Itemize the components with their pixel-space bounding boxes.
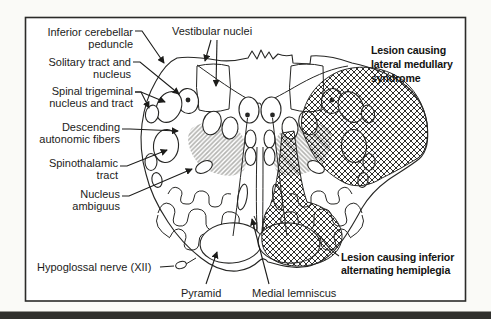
label-pyramid: Pyramid [181, 287, 221, 299]
label-descending-autonomic: Descending [62, 121, 120, 133]
label-spinal-trigeminal: Spinal trigeminal [52, 85, 133, 97]
label-nucleus-ambiguus: Nucleus [80, 188, 120, 200]
caption-lesion-lateral-medullary: syndrome [371, 72, 421, 84]
label-inferior-cerebellar-peduncle: peduncle [88, 38, 133, 50]
scanned-figure-page: Inferior cerebellar peduncle Solitary tr… [0, 0, 491, 319]
label-nucleus-ambiguus: ambiguus [72, 200, 120, 212]
label-solitary-tract: nucleus [93, 68, 131, 80]
label-spinal-trigeminal: nucleus and tract [49, 97, 133, 109]
label-spinothalamic: Spinothalamic [49, 157, 119, 169]
label-spinothalamic: tract [97, 169, 118, 181]
caption-lesion-inferior-alternating: Lesion causing inferior [341, 251, 454, 263]
label-hypoglossal-nerve: Hypoglossal nerve (XII) [37, 261, 151, 273]
hypoglossal-trigone-dot [245, 113, 250, 118]
caption-lesion-inferior-alternating: alternating hemiplegia [341, 264, 450, 276]
solitary-tract-dot [186, 98, 191, 103]
label-vestibular-nuclei: Vestibular nuclei [172, 25, 252, 37]
caption-lesion-lateral-medullary: lateral medullary [371, 58, 453, 70]
label-descending-autonomic: autonomic fibers [39, 133, 120, 145]
caption-lesion-lateral-medullary: Lesion causing [371, 44, 446, 56]
page-rule-band [0, 312, 491, 319]
label-solitary-tract: Solitary tract and [48, 56, 131, 68]
label-medial-lemniscus: Medial lemniscus [252, 287, 337, 299]
label-inferior-cerebellar-peduncle: Inferior cerebellar [47, 26, 133, 38]
figure-canvas: Inferior cerebellar peduncle Solitary tr… [0, 0, 491, 319]
midline-nucleus-oval [245, 130, 256, 148]
midline-nucleus-oval [245, 148, 256, 166]
